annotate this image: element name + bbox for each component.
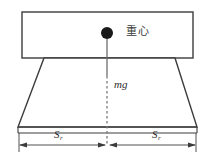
dimension-label-left-subscript: r xyxy=(60,134,63,142)
center-of-gravity-diagram: 重心 mg Sr Sr xyxy=(0,0,213,159)
weight-force-label: mg xyxy=(114,79,127,90)
dimension-arrow-right-start-icon xyxy=(109,143,117,148)
dimension-label-left-symbol: S xyxy=(54,128,60,140)
dimension-arrow-right-end-icon xyxy=(188,143,196,148)
dimension-label-right-subscript: r xyxy=(158,134,161,142)
center-of-gravity-label: 重心 xyxy=(126,26,149,37)
diagram-canvas xyxy=(0,0,213,159)
dimension-arrow-left-end-icon xyxy=(98,143,106,148)
dimension-label-right: Sr xyxy=(152,129,161,142)
dimension-label-left: Sr xyxy=(54,129,63,142)
dimension-label-right-symbol: S xyxy=(152,128,158,140)
dimension-arrow-left-start-icon xyxy=(19,143,27,148)
center-of-gravity-marker-icon xyxy=(101,27,113,39)
